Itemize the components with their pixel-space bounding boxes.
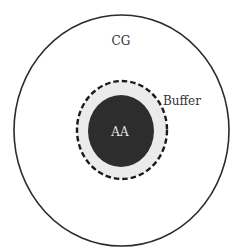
aa-label: AA bbox=[110, 125, 129, 139]
zone-diagram: CG Buffer AA bbox=[0, 0, 239, 248]
buffer-label: Buffer bbox=[163, 94, 201, 108]
cg-label: CG bbox=[112, 34, 131, 48]
